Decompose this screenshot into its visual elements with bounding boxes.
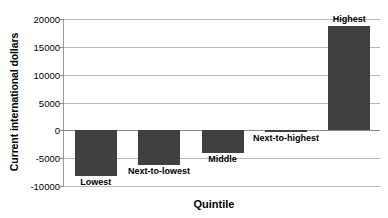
bar <box>265 130 307 132</box>
y-axis-tick-mark <box>60 186 64 187</box>
y-axis-tick-label: 0 <box>14 126 60 135</box>
y-axis-tick-labels: 20000150001000050000-5000-10000 <box>12 0 60 218</box>
y-axis-tick-label: 20000 <box>14 15 60 24</box>
y-axis-tick-label: 5000 <box>14 98 60 107</box>
bar <box>75 130 117 176</box>
y-axis-tick-label: -10000 <box>14 182 60 191</box>
x-axis-title: Quintile <box>0 198 388 210</box>
bar-value-label: Middle <box>208 154 237 164</box>
bar-value-label: Next-to-lowest <box>128 166 190 176</box>
bar <box>202 130 244 152</box>
bar-value-label: Highest <box>333 14 366 24</box>
bar <box>138 130 180 165</box>
y-axis-tick-label: 15000 <box>14 42 60 51</box>
y-axis-tick-label: 10000 <box>14 70 60 79</box>
bar-series: LowestNext-to-lowestMiddleNext-to-highes… <box>64 19 380 186</box>
gridline <box>64 186 380 187</box>
bar-value-label: Next-to-highest <box>253 133 319 143</box>
bar-value-label: Lowest <box>80 177 111 187</box>
y-axis-tick-label: -5000 <box>14 154 60 163</box>
plot-area: LowestNext-to-lowestMiddleNext-to-highes… <box>63 19 380 186</box>
bar <box>328 26 370 131</box>
bar-chart: Current international dollars 2000015000… <box>0 0 388 218</box>
